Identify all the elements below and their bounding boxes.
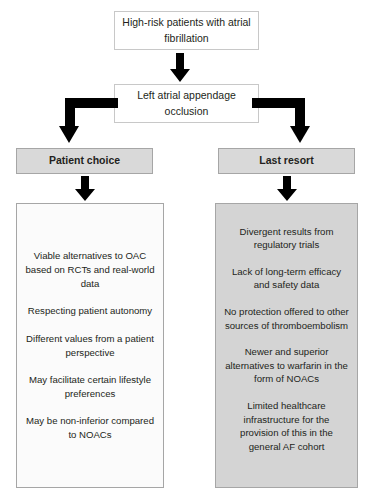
arrow-left-header-to-panel-icon [74, 176, 96, 202]
panel-patient-choice: Viable alternatives to OAC based on RCTs… [16, 203, 164, 488]
elbow-right-connector-icon [252, 98, 324, 146]
arrow-right-header-to-panel-icon [276, 176, 298, 202]
list-item: May be non-inferior compared to NOACs [25, 414, 155, 441]
header-patient-choice-label: Patient choice [49, 154, 120, 168]
list-item: Viable alternatives to OAC based on RCTs… [25, 249, 155, 290]
list-item: Different values from a patient perspect… [25, 332, 155, 359]
elbow-left-connector-icon [46, 98, 118, 146]
panel-last-resort: Divergent results from regulatory trials… [215, 203, 358, 488]
header-patient-choice: Patient choice [16, 148, 153, 174]
list-item: May facilitate certain lifestyle prefere… [25, 373, 155, 400]
list-item: Newer and superior alternatives to warfa… [224, 345, 349, 386]
header-last-resort-label: Last resort [259, 154, 313, 168]
header-last-resort: Last resort [218, 148, 355, 174]
node-high-risk-patients: High-risk patients with atrial fibrillat… [114, 11, 259, 50]
arrow-top-to-second-icon [169, 53, 191, 83]
list-item: Limited healthcare infrastructure for th… [224, 399, 349, 453]
list-item: Divergent results from regulatory trials [224, 225, 349, 252]
node-laa-occlusion-label: Left atrial appendage occlusion [121, 88, 252, 118]
node-high-risk-patients-label: High-risk patients with atrial fibrillat… [121, 15, 252, 45]
list-item: Lack of long-term efficacy and safety da… [224, 265, 349, 292]
list-item: No protection offered to other sources o… [224, 305, 349, 332]
node-laa-occlusion: Left atrial appendage occlusion [114, 84, 259, 123]
flowchart-canvas: High-risk patients with atrial fibrillat… [0, 0, 370, 502]
list-item: Respecting patient autonomy [25, 304, 155, 318]
